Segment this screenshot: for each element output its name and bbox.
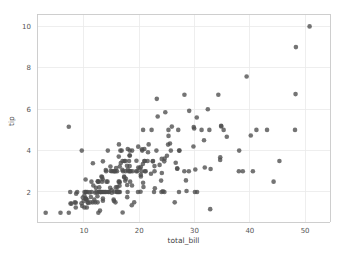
data-point [104,169,109,174]
data-point [224,134,229,139]
data-point [140,148,145,153]
data-point [244,74,249,79]
data-point [175,166,180,171]
data-point [130,148,135,153]
data-point [162,159,167,164]
data-point [307,24,312,29]
data-point [91,161,96,166]
data-point [139,169,144,174]
data-point [237,169,242,174]
data-point [141,185,146,190]
scatter-plot: 1020304050 246810 total_bill tip [0,0,345,259]
data-point [66,210,71,215]
data-point [69,201,74,206]
y-tick-label: 4 [27,147,32,155]
data-point [86,201,91,206]
data-point [98,190,103,195]
data-point [108,186,113,191]
data-point [160,171,165,176]
y-tick-label: 2 [27,189,31,197]
data-point [130,183,135,188]
data-point [68,190,73,195]
data-point [130,169,135,174]
data-point [112,189,117,194]
data-point [193,167,198,172]
data-point [208,207,213,212]
data-point [136,190,141,195]
data-point [123,169,128,174]
data-point [136,144,141,149]
data-point [74,191,79,196]
data-point [125,190,130,195]
data-point [166,142,171,147]
data-point [206,107,211,112]
data-point [106,190,111,195]
y-tick-label: 10 [22,23,31,31]
data-point [127,153,132,158]
data-point [141,128,146,133]
data-point [202,138,207,143]
data-point [73,205,78,210]
data-point [163,110,168,115]
x-tick-label: 50 [301,227,310,235]
data-point [172,200,177,205]
data-point [125,195,130,200]
data-point [129,203,134,208]
data-point [128,179,133,184]
data-point [159,178,164,183]
data-point [152,164,157,169]
x-tick-label: 10 [80,227,89,235]
data-point [184,189,189,194]
data-point [80,195,85,200]
data-point [100,179,105,184]
data-point [43,210,48,215]
data-point [122,174,127,179]
data-point [89,190,94,195]
axes-background [37,14,330,222]
data-point [155,97,160,102]
data-point [193,190,198,195]
data-point [94,186,99,191]
data-point [117,183,122,188]
data-point [117,142,122,147]
x-axis-title: total_bill [168,236,200,245]
data-point [96,210,101,215]
data-point [146,142,151,147]
data-point [159,190,164,195]
data-point [219,124,224,129]
data-point [155,114,160,119]
data-point [166,128,171,133]
data-point [127,164,132,169]
data-point [294,45,299,50]
data-point [152,190,157,195]
data-point [106,148,111,153]
data-point [293,92,298,97]
data-point [112,169,117,174]
data-point [116,179,121,184]
data-point [116,154,121,159]
data-point [142,159,147,164]
data-point [127,159,132,164]
data-point [187,109,192,114]
data-point [177,190,182,195]
data-point [251,169,256,174]
data-point [187,169,192,174]
data-point [134,158,139,163]
data-point [241,169,246,174]
data-point [191,125,196,130]
y-tick-label: 6 [27,106,32,114]
data-point [82,190,87,195]
data-point [82,205,87,210]
data-point [149,128,154,133]
data-point [101,198,106,203]
chart-figure: 1020304050 246810 total_bill tip [0,0,345,259]
data-point [177,148,182,153]
data-point [293,128,298,133]
data-point [169,148,174,153]
data-point [157,163,162,168]
data-point [58,210,63,215]
data-point [66,125,71,130]
data-point [191,144,196,149]
data-point [265,128,270,133]
data-point [271,179,276,184]
